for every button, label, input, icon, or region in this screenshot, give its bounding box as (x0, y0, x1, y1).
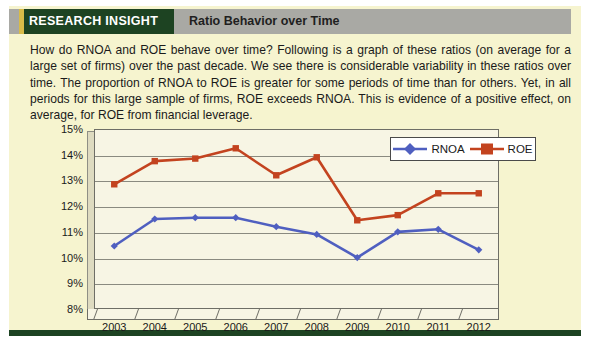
x-axis-tick-label: 2007 (264, 321, 288, 333)
x-axis-tick (174, 309, 179, 320)
x-axis-tick-label: 2006 (224, 321, 248, 333)
data-point-roe (111, 181, 117, 187)
roe-square-icon (470, 142, 504, 156)
legend-label-rnoa: RNOA (431, 143, 464, 155)
x-axis-tick-label: 2008 (305, 321, 329, 333)
y-axis-tick-label: 8% (49, 303, 83, 315)
data-point-roe (395, 212, 401, 218)
data-point-rnoa (273, 223, 280, 230)
ratio-line-chart: 8%9%10%11%12%13%14%15% 20032004200520062… (33, 129, 511, 329)
x-axis-tick (214, 309, 219, 320)
y-axis-tick-label: 12% (49, 200, 83, 212)
research-insight-box: RESEARCH INSIGHT Ratio Behavior over Tim… (9, 6, 581, 336)
data-point-roe (476, 190, 482, 196)
x-axis-tick (255, 309, 260, 320)
x-axis-tick-label: 2009 (345, 321, 369, 333)
x-axis-tick (417, 309, 422, 320)
x-axis-tick-label: 2012 (467, 321, 491, 333)
x-axis-tick-label: 2003 (102, 321, 126, 333)
data-point-roe (273, 172, 279, 178)
data-point-roe (354, 217, 360, 223)
x-axis-tick-label: 2010 (386, 321, 410, 333)
x-axis-tick-label: 2004 (143, 321, 167, 333)
legend-entry-roe: ROE (470, 142, 533, 156)
x-axis-band (87, 309, 499, 320)
rnoa-diamond-icon (393, 142, 427, 156)
body-paragraph: How do RNOA and ROE behave over time? Fo… (30, 42, 571, 123)
y-axis-labels: 8%9%10%11%12%13%14%15% (33, 129, 83, 309)
y-axis-tick-label: 14% (49, 149, 83, 161)
y-axis-tick-label: 11% (49, 226, 83, 238)
data-point-rnoa (232, 214, 239, 221)
data-point-rnoa (192, 214, 199, 221)
data-point-roe (192, 155, 198, 161)
y-axis-tick-label: 13% (49, 174, 83, 186)
y-axis-tick-label: 9% (49, 277, 83, 289)
page-title: Ratio Behavior over Time (189, 14, 340, 28)
data-point-roe (314, 154, 320, 160)
y-axis-tick-label: 15% (49, 123, 83, 135)
data-point-roe (435, 190, 441, 196)
chart-legend: RNOA ROE (390, 137, 536, 161)
legend-entry-rnoa: RNOA (393, 142, 464, 156)
y-axis-tick-label: 10% (49, 252, 83, 264)
data-point-roe (152, 158, 158, 164)
x-axis-tick (336, 309, 341, 320)
legend-label-roe: ROE (508, 143, 533, 155)
x-axis-tick (376, 309, 381, 320)
data-point-roe (233, 145, 239, 151)
series-line-rnoa (114, 218, 479, 258)
x-axis-tick-label: 2011 (426, 321, 450, 333)
x-axis-tick (457, 309, 462, 320)
x-axis-tick (93, 309, 98, 320)
x-axis-tick-label: 2005 (183, 321, 207, 333)
page-root: RESEARCH INSIGHT Ratio Behavior over Tim… (0, 0, 590, 347)
x-axis-tick (133, 309, 138, 320)
x-axis-tick (295, 309, 300, 320)
research-insight-label: RESEARCH INSIGHT (29, 14, 179, 28)
